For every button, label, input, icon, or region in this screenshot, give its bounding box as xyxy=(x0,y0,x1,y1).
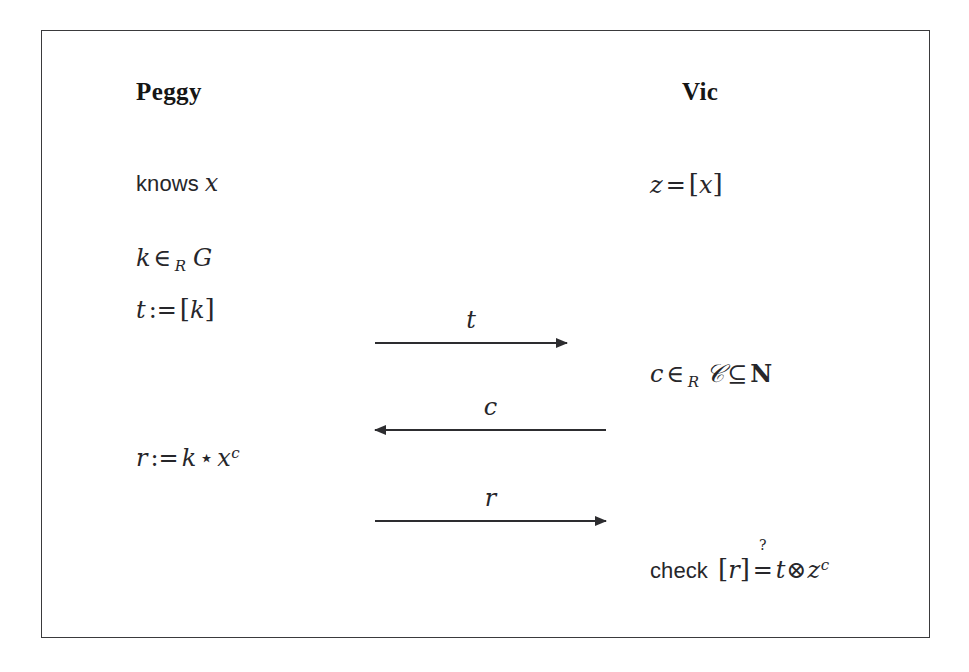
group-symbol-g: G xyxy=(193,244,212,272)
public-variable-z: z xyxy=(650,171,663,199)
bracket-close: ] xyxy=(205,294,215,324)
arrow-line xyxy=(375,520,606,522)
party-title-peggy: Peggy xyxy=(136,79,202,104)
check-commitment-t: t xyxy=(776,556,786,584)
random-subscript: R xyxy=(174,257,186,275)
question-equals-relation: ?= xyxy=(750,558,776,582)
bracket-open: [ xyxy=(689,169,699,199)
check-response-r: r xyxy=(728,556,739,584)
equals-operator: = xyxy=(663,171,689,199)
equals-operator: = xyxy=(753,556,773,584)
verifier-public-key: z=[x] xyxy=(650,171,723,197)
response-nonce-k: k xyxy=(182,444,197,472)
bracket-close: ] xyxy=(712,169,722,199)
response-exponent-c: c xyxy=(231,444,240,462)
arrow-head-right-icon xyxy=(556,338,568,348)
commitment-inner-k: k xyxy=(190,296,205,324)
arrow-head-right-icon xyxy=(595,516,607,526)
knows-keyword: knows xyxy=(136,171,199,196)
message-label-t: t xyxy=(375,306,567,334)
message-label-c: c xyxy=(375,393,606,421)
element-of-icon: ∈ xyxy=(663,360,687,388)
challenge-variable-c: c xyxy=(650,360,663,388)
party-title-vic: Vic xyxy=(682,79,718,104)
verifier-random-challenge: c∈R𝒞⊆N xyxy=(650,361,772,390)
public-inner-x: x xyxy=(699,171,713,199)
prover-response-assign: r:=k⋆xc xyxy=(136,446,240,470)
star-operator-icon: ⋆ xyxy=(196,444,217,472)
assign-operator: := xyxy=(147,444,181,472)
bracket-close: ] xyxy=(740,554,750,584)
check-exponent-c: c xyxy=(820,556,829,574)
check-keyword: check xyxy=(650,558,708,583)
random-subscript: R xyxy=(687,373,699,391)
message-arrow-challenge: c xyxy=(375,429,606,431)
prover-knows-x: knowsx xyxy=(136,171,218,195)
commitment-variable-t: t xyxy=(136,296,146,324)
challenge-set-symbol: 𝒞 xyxy=(706,359,724,388)
verifier-check-equation: check[r]?=t⊗zc xyxy=(650,556,829,582)
response-variable-r: r xyxy=(136,444,147,472)
element-of-icon: ∈ xyxy=(151,244,175,272)
arrow-line xyxy=(375,342,567,344)
naturals-symbol: N xyxy=(750,359,772,388)
prover-commitment-assign: t:=[k] xyxy=(136,296,215,322)
arrow-line xyxy=(375,429,606,431)
subset-operator-icon: ⊆ xyxy=(724,360,750,388)
prover-random-k: k∈RG xyxy=(136,246,212,274)
message-arrow-response: r xyxy=(375,520,606,522)
bracket-open: [ xyxy=(718,554,728,584)
response-secret-x: x xyxy=(217,444,231,472)
bracket-open: [ xyxy=(180,294,190,324)
secret-variable-x: x xyxy=(205,169,219,197)
assign-operator: := xyxy=(146,296,180,324)
message-label-r: r xyxy=(375,484,606,512)
message-arrow-commitment: t xyxy=(375,342,567,344)
arrow-head-left-icon xyxy=(374,425,386,435)
check-public-z: z xyxy=(808,556,821,584)
question-mark-icon: ? xyxy=(750,538,776,552)
nonce-variable-k: k xyxy=(136,244,151,272)
protocol-diagram-frame: Peggy Vic knowsx k∈RG t:=[k] r:=k⋆xc z=[… xyxy=(41,30,930,638)
tensor-operator-icon: ⊗ xyxy=(785,556,807,584)
